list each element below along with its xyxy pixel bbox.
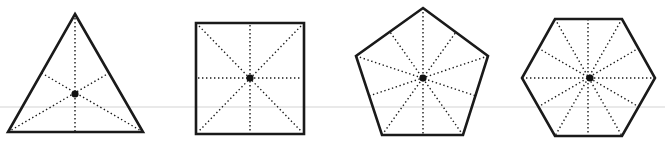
pentagon-figure (356, 8, 488, 135)
pentagon-symmetry-line (356, 56, 476, 96)
hexagon-figure (522, 19, 655, 136)
pentagon-symmetry-line (382, 32, 456, 135)
hexagon-center-point (586, 74, 593, 81)
shapes-group (8, 8, 655, 136)
square-center-point (246, 74, 253, 81)
pentagon-outline (356, 8, 488, 135)
pentagon-center-point (419, 74, 426, 81)
pentagon-symmetry-line (390, 32, 463, 135)
triangle-center-point (71, 90, 78, 97)
polygon-symmetry-diagram (0, 0, 665, 146)
pentagon-symmetry-line (369, 56, 488, 96)
triangle-figure (8, 14, 143, 132)
triangle-symmetry-line (42, 73, 144, 132)
triangle-symmetry-line (8, 73, 109, 132)
square-figure (196, 23, 304, 134)
